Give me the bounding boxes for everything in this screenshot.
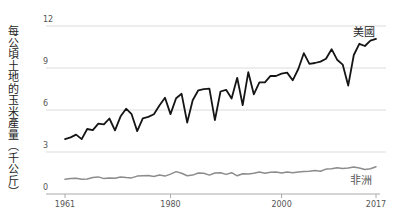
x-tick-label: 1961 <box>55 200 75 209</box>
africa-series-label: 非洲 <box>350 174 372 187</box>
x-axis <box>46 194 380 198</box>
y-tick-labels: 036912 <box>43 15 53 192</box>
y-tick-label: 12 <box>43 15 53 24</box>
x-tick-labels: 1961198020002017 <box>55 200 386 209</box>
africa-line-series <box>65 167 376 180</box>
maize-yield-chart: 每公頃土地的玉米產量（千公斤） 036912 1961198020002017 … <box>0 0 399 224</box>
x-tick-label: 2017 <box>366 200 386 209</box>
gridlines <box>46 26 386 152</box>
x-tick-label: 2000 <box>271 200 291 209</box>
y-tick-label: 6 <box>43 99 48 108</box>
y-tick-label: 0 <box>43 183 48 192</box>
x-tick-label: 1980 <box>160 200 180 209</box>
usa-line-series <box>65 39 376 139</box>
y-tick-label: 9 <box>43 57 48 66</box>
y-tick-label: 3 <box>43 141 48 150</box>
usa-series-label: 美國 <box>353 26 375 39</box>
chart-canvas: 036912 1961198020002017 美國 非洲 <box>0 0 399 224</box>
